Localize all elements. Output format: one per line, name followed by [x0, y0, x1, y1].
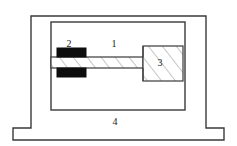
- label-part-2: 2: [67, 38, 72, 49]
- clamp-block-upper: [57, 48, 86, 57]
- label-part-3: 3: [158, 57, 163, 68]
- label-part-4: 4: [113, 116, 118, 127]
- mass-block-body: [143, 46, 183, 81]
- label-part-1: 1: [112, 38, 117, 49]
- diagram-canvas: 2 1 3 4: [0, 0, 237, 146]
- diagram-root: 2 1 3 4: [0, 0, 237, 146]
- clamp-block-lower: [57, 68, 86, 77]
- beam-body: [51, 57, 143, 68]
